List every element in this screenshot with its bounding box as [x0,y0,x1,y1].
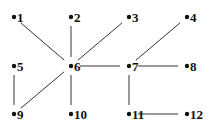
edge-3-6 [78,23,122,60]
node-label: 6 [74,59,81,74]
node-6: 6 [69,59,81,74]
node-dot-icon [69,112,73,116]
node-9: 9 [12,107,24,122]
node-label: 8 [190,59,197,74]
node-label: 12 [190,107,203,122]
node-dot-icon [69,15,73,19]
node-label: 1 [17,10,24,25]
node-11: 11 [127,107,144,122]
node-dot-icon [12,64,16,68]
node-label: 4 [190,10,197,25]
node-label: 9 [17,107,24,122]
node-dot-icon [127,15,131,19]
node-3: 3 [127,10,139,25]
edges-layer [14,23,180,114]
node-dot-icon [127,112,131,116]
edge-6-9 [21,72,64,108]
node-dot-icon [185,112,189,116]
node-dot-icon [69,64,73,68]
node-dot-icon [185,15,189,19]
node-8: 8 [185,59,197,74]
graph-diagram: 123456789101112 [0,0,210,125]
node-2: 2 [69,10,81,25]
node-label: 11 [132,107,144,122]
node-dot-icon [12,15,16,19]
node-label: 5 [17,59,24,74]
node-label: 2 [74,10,81,25]
node-label: 3 [132,10,139,25]
node-dot-icon [185,64,189,68]
node-4: 4 [185,10,197,25]
edge-4-7 [136,23,180,60]
node-5: 5 [12,59,24,74]
node-dot-icon [127,64,131,68]
node-label: 7 [132,59,139,74]
node-10: 10 [69,107,87,122]
node-12: 12 [185,107,203,122]
edge-1-6 [21,23,64,60]
node-1: 1 [12,10,24,25]
node-7: 7 [127,59,139,74]
node-dot-icon [12,112,16,116]
node-label: 10 [74,107,87,122]
